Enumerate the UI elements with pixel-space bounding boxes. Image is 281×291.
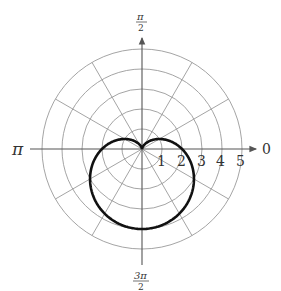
angle-label-pi: π <box>11 139 24 159</box>
radial-tick-4: 4 <box>216 153 225 169</box>
spoke-30 <box>142 99 229 149</box>
spoke-150 <box>55 99 142 149</box>
polar-plot: 0 π π 2 3π 2 1 2 3 4 5 <box>0 0 281 291</box>
radial-tick-1: 1 <box>157 153 166 169</box>
svg-text:3π: 3π <box>134 270 147 281</box>
spoke-60 <box>142 62 192 149</box>
svg-text:2: 2 <box>138 282 144 291</box>
spoke-120 <box>92 62 142 149</box>
radial-tick-5: 5 <box>236 153 245 169</box>
angle-label-pi-over-2: π 2 <box>136 11 147 33</box>
svg-text:2: 2 <box>138 23 144 33</box>
radial-tick-3: 3 <box>197 153 206 169</box>
svg-text:π: π <box>136 11 144 22</box>
radial-tick-2: 2 <box>177 153 186 169</box>
angle-label-3pi-over-2: 3π 2 <box>133 270 149 291</box>
spoke-210 <box>55 149 142 199</box>
angle-label-0: 0 <box>262 141 271 157</box>
